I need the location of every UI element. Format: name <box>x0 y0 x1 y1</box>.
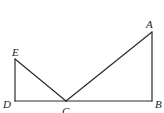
geometry-figure: A E D C B <box>0 0 164 113</box>
segment-ca <box>66 32 152 101</box>
point-label-e: E <box>11 46 19 58</box>
point-label-c: C <box>62 105 70 113</box>
point-label-b: B <box>155 98 162 110</box>
segment-ec <box>15 59 66 101</box>
point-label-a: A <box>145 18 153 30</box>
point-label-d: D <box>2 98 11 110</box>
